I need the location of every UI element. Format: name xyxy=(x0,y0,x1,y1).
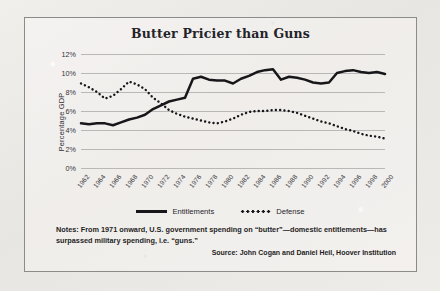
notes-text: Notes: From 1971 onward, U.S. government… xyxy=(56,224,396,247)
x-tick-label: 1970 xyxy=(140,173,155,189)
x-tick-label: 1976 xyxy=(188,173,203,189)
y-tick-label: 6% xyxy=(66,107,76,116)
legend-item-defense[interactable]: Defense xyxy=(240,207,304,216)
chart-title: Butter Pricier than Guns xyxy=(25,26,416,41)
plot-area: 0%2%4%6%8%10%12% 19621964196619681970197… xyxy=(81,54,385,168)
series-defense xyxy=(81,82,385,139)
x-tick-label: 1996 xyxy=(348,173,363,189)
x-tick-label: 1990 xyxy=(300,173,315,189)
chart-frame: Butter Pricier than Guns Percentage GDP … xyxy=(24,17,417,272)
y-axis-title: Percentage GDP xyxy=(57,93,66,152)
x-tick-label: 1994 xyxy=(332,173,347,189)
x-tick-label: 1966 xyxy=(108,173,123,189)
chart-legend: EntitlementsDefense xyxy=(25,207,416,216)
series-entitlements xyxy=(81,69,385,125)
x-tick-label: 1982 xyxy=(236,173,251,189)
x-tick-label: 1992 xyxy=(316,173,331,189)
x-tick-label: 1984 xyxy=(252,173,267,189)
legend-swatch-dotted-icon xyxy=(240,210,271,213)
series-lines xyxy=(81,54,385,168)
y-tick-label: 0% xyxy=(66,164,76,173)
y-tick-label: 8% xyxy=(66,88,76,97)
x-tick-label: 1988 xyxy=(284,173,299,189)
x-tick-label: 2000 xyxy=(380,173,395,189)
legend-label: Entitlements xyxy=(172,207,214,216)
y-tick-label: 2% xyxy=(66,145,76,154)
x-tick-label: 1964 xyxy=(92,173,107,189)
x-tick-label: 1998 xyxy=(364,173,379,189)
y-tick-label: 12% xyxy=(62,50,76,59)
source-text: Source: John Cogan and Daniel Heil, Hoov… xyxy=(212,249,396,256)
x-tick-label: 1980 xyxy=(220,173,235,189)
x-tick-label: 1974 xyxy=(172,173,187,189)
legend-swatch-solid-icon xyxy=(136,210,167,213)
y-tick-label: 4% xyxy=(66,126,76,135)
x-tick-label: 1986 xyxy=(268,173,283,189)
x-tick-label: 1968 xyxy=(124,173,139,189)
legend-item-entitlements[interactable]: Entitlements xyxy=(136,207,214,216)
x-tick-label: 1978 xyxy=(204,173,219,189)
legend-label: Defense xyxy=(276,207,304,216)
y-tick-label: 10% xyxy=(62,69,76,78)
x-tick-label: 1972 xyxy=(156,173,171,189)
gridline xyxy=(81,168,385,169)
x-tick-label: 1962 xyxy=(76,173,91,189)
